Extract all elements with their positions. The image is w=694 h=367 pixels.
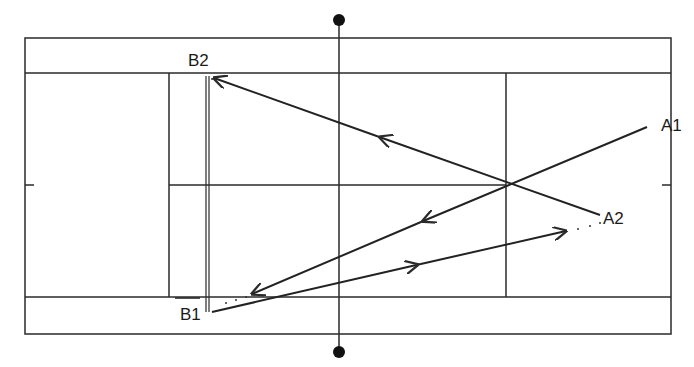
net-post-top-icon	[333, 14, 345, 26]
dotted-extensions	[211, 78, 601, 304]
label-b1: B1	[180, 305, 201, 324]
court-outer-boundary	[25, 38, 671, 334]
net-post-bottom-icon	[333, 346, 345, 358]
dot	[245, 296, 247, 298]
label-a2: A2	[603, 209, 624, 228]
label-b2: B2	[188, 51, 209, 70]
player-b-position-line	[175, 76, 209, 312]
shot-paths	[212, 78, 647, 312]
tennis-court-diagram: B2 B1 A1 A2	[0, 0, 694, 367]
dot	[599, 222, 601, 224]
dot	[211, 78, 213, 80]
dot	[225, 302, 227, 304]
dot	[577, 228, 579, 230]
net	[333, 14, 345, 358]
dot	[589, 225, 591, 227]
court-lines	[25, 38, 671, 334]
shot-b1-to-a2	[212, 231, 566, 312]
dot	[235, 299, 237, 301]
label-a1: A1	[661, 116, 682, 135]
shot-a2-to-b2	[214, 78, 600, 215]
